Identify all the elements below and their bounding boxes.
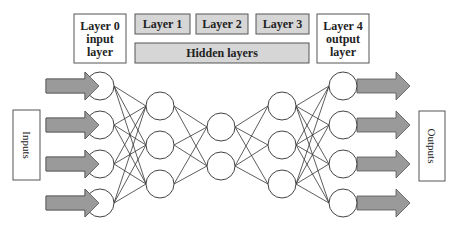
layer3-label: Layer 3 <box>256 14 309 34</box>
inputs-box: Inputs <box>13 110 40 180</box>
hidden2-node <box>207 113 235 141</box>
layer0-label-text: input <box>86 32 113 46</box>
layer1-label-text: Layer 1 <box>143 17 182 31</box>
connection-line <box>296 86 329 184</box>
connection-line <box>296 86 329 106</box>
layer4-label-text: output <box>326 32 360 46</box>
layer3-label-text: Layer 3 <box>263 17 302 31</box>
layer4-label-text: layer <box>330 45 357 59</box>
output-arrow-icon <box>357 111 410 139</box>
outputs-box-text: Outputs <box>426 129 438 164</box>
layer4-label-text: Layer 4 <box>323 19 362 33</box>
hidden-layers-label-text: Hidden layers <box>186 46 258 60</box>
output-node <box>329 72 357 100</box>
connection-line <box>235 145 268 166</box>
hidden1-node <box>146 131 174 159</box>
hidden3-node <box>268 131 296 159</box>
neural-network-diagram: Layer 0inputlayerLayer 1Layer 2Layer 3La… <box>0 0 459 232</box>
output-arrow-icon <box>357 150 410 178</box>
outputs-box: Outputs <box>419 111 445 181</box>
layer0-label: Layer 0inputlayer <box>74 14 126 63</box>
output-node <box>329 189 357 217</box>
hidden2-node <box>207 152 235 180</box>
hidden-layers-label: Hidden layers <box>135 43 309 63</box>
output-arrow-icon <box>357 189 410 217</box>
layer4-label: Layer 4outputlayer <box>317 14 369 63</box>
output-node <box>329 150 357 178</box>
layer0-label-text: Layer 0 <box>80 19 119 33</box>
layer-labels: Layer 0inputlayerLayer 1Layer 2Layer 3La… <box>74 14 369 63</box>
input-arrows-overlay <box>46 72 99 217</box>
inputs-box-text: Inputs <box>21 131 33 159</box>
layer2-label-text: Layer 2 <box>202 17 241 31</box>
layer2-label: Layer 2 <box>196 14 248 34</box>
hidden3-node <box>268 92 296 120</box>
hidden1-node <box>146 92 174 120</box>
hidden3-node <box>268 170 296 198</box>
connection-line <box>235 106 268 127</box>
layer1-label: Layer 1 <box>135 14 190 34</box>
connection-line <box>296 164 329 184</box>
connection-line <box>114 86 146 106</box>
output-arrow-icon <box>357 72 410 100</box>
output-node <box>329 111 357 139</box>
hidden1-node <box>146 170 174 198</box>
layer0-label-text: layer <box>87 45 114 59</box>
connection-line <box>174 106 207 127</box>
